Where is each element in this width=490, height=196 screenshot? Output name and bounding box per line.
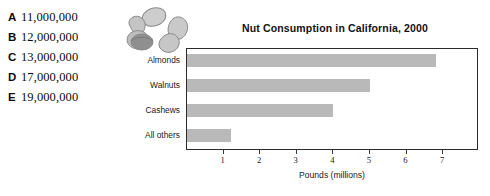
bar-row-cashews bbox=[187, 104, 333, 117]
x-tick-6 bbox=[406, 150, 407, 154]
category-axis-labels: Almonds Walnuts Cashews All others bbox=[115, 48, 183, 150]
x-tick-label-1: 1 bbox=[220, 155, 224, 165]
bar-series bbox=[187, 49, 477, 149]
x-tick-label-3: 3 bbox=[294, 155, 298, 165]
answer-option-b[interactable]: B 12,000,000 bbox=[8, 27, 118, 47]
x-tick-5 bbox=[369, 150, 370, 154]
bar-row-almonds bbox=[187, 54, 436, 67]
answer-option-a[interactable]: A 11,000,000 bbox=[8, 7, 118, 27]
answer-letter: B bbox=[8, 27, 21, 47]
x-tick-label-2: 2 bbox=[257, 155, 261, 165]
x-tick-4 bbox=[332, 150, 333, 154]
answer-letter: D bbox=[8, 67, 21, 87]
bar-row-walnuts bbox=[187, 79, 370, 92]
answer-value: 17,000,000 bbox=[21, 67, 78, 87]
x-tick-label-4: 4 bbox=[330, 155, 334, 165]
category-label-almonds: Almonds bbox=[147, 55, 180, 65]
answer-choice-list: A 11,000,000 B 12,000,000 C 13,000,000 D… bbox=[8, 7, 118, 107]
answer-value: 13,000,000 bbox=[21, 47, 78, 67]
plot-area bbox=[186, 48, 478, 150]
x-tick-2 bbox=[259, 150, 260, 154]
answer-letter: A bbox=[8, 7, 21, 27]
chart-title: Nut Consumption in California, 2000 bbox=[185, 22, 485, 34]
answer-option-e[interactable]: E 19,000,000 bbox=[8, 87, 118, 107]
answer-option-d[interactable]: D 17,000,000 bbox=[8, 67, 118, 87]
answer-value: 11,000,000 bbox=[21, 7, 78, 27]
bar-cashews bbox=[187, 104, 333, 117]
category-label-all-others: All others bbox=[145, 130, 180, 140]
bar-all-others bbox=[187, 129, 231, 142]
answer-letter: E bbox=[8, 87, 21, 107]
category-label-walnuts: Walnuts bbox=[150, 80, 180, 90]
x-tick-label-6: 6 bbox=[403, 155, 407, 165]
x-tick-label-5: 5 bbox=[367, 155, 371, 165]
worksheet-page: A 11,000,000 B 12,000,000 C 13,000,000 D… bbox=[0, 0, 490, 196]
bar-row-all-others bbox=[187, 129, 231, 142]
x-tick-label-7: 7 bbox=[440, 155, 444, 165]
x-tick-7 bbox=[442, 150, 443, 154]
x-tick-1 bbox=[223, 150, 224, 154]
x-tick-3 bbox=[296, 150, 297, 154]
answer-option-c[interactable]: C 13,000,000 bbox=[8, 47, 118, 67]
answer-value: 19,000,000 bbox=[21, 87, 78, 107]
category-label-cashews: Cashews bbox=[146, 105, 180, 115]
x-axis-title: Pounds (millions) bbox=[186, 170, 478, 180]
bar-walnuts bbox=[187, 79, 370, 92]
answer-value: 12,000,000 bbox=[21, 27, 78, 47]
bar-chart: Nut Consumption in California, 2000 Almo… bbox=[115, 0, 490, 196]
answer-letter: C bbox=[8, 47, 21, 67]
bar-almonds bbox=[187, 54, 436, 67]
